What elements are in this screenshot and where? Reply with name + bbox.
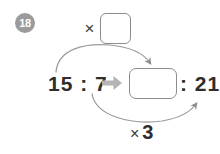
bottom-multiplication-factor: ×3 [130, 122, 153, 144]
bottom-factor-value: 3 [142, 121, 153, 143]
top-answer-box[interactable] [100, 13, 131, 44]
middle-answer-box[interactable] [129, 68, 177, 99]
top-multiplication-operator: × [81, 19, 98, 39]
right-ratio-label: : 21 [180, 68, 220, 99]
bottom-multiplication-operator: × [130, 125, 139, 142]
exercise-canvas: 18 × 15 : 7 : 21 ×3 [0, 0, 220, 154]
left-ratio-label: 15 : 7 [48, 68, 108, 99]
right-block-arrow-icon [101, 74, 123, 92]
